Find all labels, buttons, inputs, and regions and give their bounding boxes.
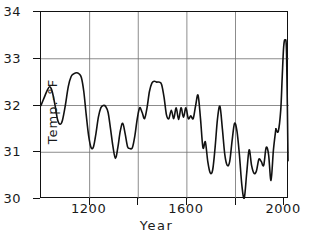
y-axis-tick-label: 33: [3, 50, 21, 65]
y-axis-tick-mark: [33, 105, 40, 106]
data-series: [41, 40, 288, 199]
plot-svg: [41, 12, 289, 199]
chart-figure: 3031323334 Temp.-°F 120016002000 Year: [0, 0, 313, 236]
y-axis-tick-mark: [33, 151, 40, 152]
x-axis-label: Year: [0, 218, 313, 233]
x-axis-tick-mark: [186, 198, 187, 205]
x-axis-tick-mark: [89, 198, 90, 205]
data-line: [276, 40, 288, 161]
data-line: [41, 73, 276, 199]
x-axis-tick-mark: [235, 198, 236, 205]
x-axis-tick-mark: [283, 198, 284, 205]
y-axis-tick-label: 32: [3, 97, 21, 112]
y-axis-tick-label: 34: [3, 4, 21, 19]
y-axis-tick-label: 31: [3, 144, 21, 159]
x-axis-tick-mark: [137, 198, 138, 205]
y-axis-tick-mark: [33, 11, 40, 12]
y-axis-label: Temp.-°F: [45, 52, 60, 172]
plot-area: [40, 11, 288, 198]
y-axis-tick-mark: [33, 58, 40, 59]
y-axis-tick-mark: [33, 198, 40, 199]
y-axis-tick-label: 30: [3, 191, 21, 206]
